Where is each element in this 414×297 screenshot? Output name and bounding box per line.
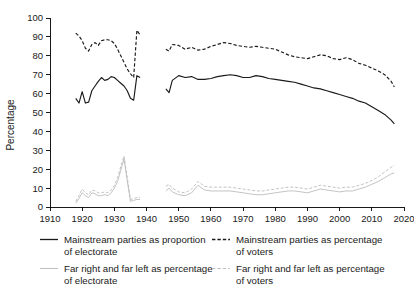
y-tick-label: 90 bbox=[32, 31, 43, 42]
series-line-1-segment-1 bbox=[76, 76, 140, 103]
y-tick-label: 0 bbox=[38, 201, 43, 212]
legend-label-2: Mainstream parties as percentage bbox=[236, 234, 382, 245]
y-axis-title: Percentage bbox=[5, 99, 16, 151]
series-layer bbox=[76, 30, 395, 203]
series-line-2-segment-1 bbox=[76, 30, 140, 77]
series-line-4-segment-1 bbox=[76, 156, 140, 201]
legend-label-1: Mainstream parties as proportion bbox=[64, 234, 206, 245]
line-chart: Percentage 0102030405060708090100 191019… bbox=[0, 0, 414, 297]
x-tick-label: 1950 bbox=[168, 213, 189, 224]
x-tick-label: 1960 bbox=[200, 213, 221, 224]
y-axis-ticks: 0102030405060708090100 bbox=[27, 12, 50, 212]
chart-legend: Mainstream parties as proportionof elect… bbox=[40, 234, 385, 286]
y-tick-label: 20 bbox=[32, 164, 43, 175]
y-tick-label: 30 bbox=[32, 145, 43, 156]
legend-label-4-line2: of voters bbox=[236, 275, 273, 286]
legend-label-3: Far right and far left as percentage bbox=[64, 263, 213, 274]
x-tick-label: 2020 bbox=[393, 213, 414, 224]
y-tick-label: 100 bbox=[27, 12, 43, 23]
x-tick-label: 2010 bbox=[361, 213, 382, 224]
x-tick-label: 1920 bbox=[72, 213, 93, 224]
legend-label-2-line2: of voters bbox=[236, 246, 273, 257]
chart-figure: Percentage 0102030405060708090100 191019… bbox=[0, 0, 414, 297]
y-tick-label: 60 bbox=[32, 88, 43, 99]
x-tick-label: 1970 bbox=[233, 213, 254, 224]
x-tick-label: 1990 bbox=[297, 213, 318, 224]
x-tick-label: 1980 bbox=[265, 213, 286, 224]
x-axis-ticks: 1910192019301940195019601970198019902000… bbox=[39, 207, 414, 224]
series-line-3-segment-1 bbox=[76, 159, 140, 203]
series-line-3-segment-2 bbox=[166, 173, 395, 196]
x-tick-label: 1940 bbox=[136, 213, 157, 224]
y-axis-title-text: Percentage bbox=[5, 99, 16, 151]
legend-label-1-line2: of electorate bbox=[64, 246, 117, 257]
series-line-1-segment-2 bbox=[166, 75, 395, 124]
y-tick-label: 70 bbox=[32, 69, 43, 80]
x-tick-label: 2000 bbox=[329, 213, 350, 224]
y-tick-label: 80 bbox=[32, 50, 43, 61]
legend-label-3-line2: of electorate bbox=[64, 275, 117, 286]
x-tick-label: 1930 bbox=[104, 213, 125, 224]
x-tick-label: 1910 bbox=[39, 213, 60, 224]
legend-label-4: Far right and far left as percentage bbox=[236, 263, 385, 274]
y-tick-label: 40 bbox=[32, 126, 43, 137]
y-tick-label: 10 bbox=[32, 183, 43, 194]
y-tick-label: 50 bbox=[32, 107, 43, 118]
